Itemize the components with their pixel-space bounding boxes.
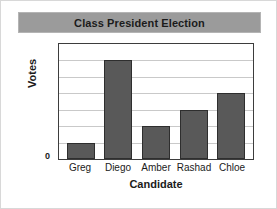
bar-diego: [104, 60, 132, 159]
x-tick-label-greg: Greg: [61, 162, 99, 173]
y-axis-title: Votes: [26, 66, 38, 88]
bar-greg: [67, 143, 95, 159]
bar-slot: [62, 44, 100, 159]
y-axis-origin-label: 0: [45, 151, 50, 161]
chart-title-band: Class President Election: [18, 12, 261, 33]
bar-slot: [175, 44, 213, 159]
chart-title: Class President Election: [74, 17, 205, 29]
bar-slot: [212, 44, 250, 159]
x-tick-label-chloe: Chloe: [213, 162, 251, 173]
bar-slot: [137, 44, 175, 159]
x-tick-label-rashad: Rashad: [175, 162, 213, 173]
x-axis-tick-labels: GregDiegoAmberRashadChloe: [58, 162, 254, 173]
bar-slot: [100, 44, 138, 159]
chart-figure: Class President Election Votes 0 GregDie…: [0, 0, 277, 209]
x-axis-title: Candidate: [58, 178, 254, 190]
x-tick-label-diego: Diego: [99, 162, 137, 173]
bar-amber: [142, 126, 170, 159]
bar-rashad: [180, 110, 208, 159]
bar-chloe: [217, 93, 245, 159]
bars-layer: [59, 44, 253, 159]
x-tick-label-amber: Amber: [137, 162, 175, 173]
plot-area: [58, 43, 254, 160]
